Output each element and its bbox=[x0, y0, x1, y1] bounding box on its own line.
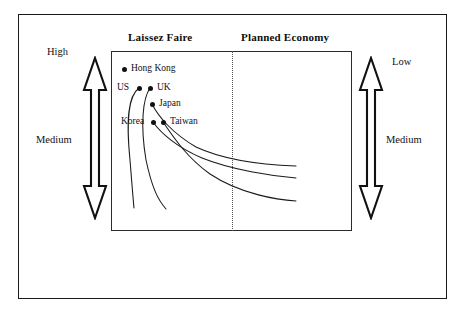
data-label-taiwan: Taiwan bbox=[170, 116, 198, 126]
data-point-japan bbox=[150, 102, 155, 107]
header-planned-economy: Planned Economy bbox=[241, 31, 329, 43]
data-label-hong-kong: Hong Kong bbox=[131, 63, 176, 73]
right-axis-label-medium: Medium bbox=[386, 134, 422, 145]
data-point-us bbox=[137, 86, 142, 91]
data-label-korea: Korea bbox=[121, 116, 144, 126]
header-laissez-faire: Laissez Faire bbox=[128, 31, 192, 43]
data-label-us: US bbox=[117, 82, 129, 92]
right-axis-label-low: Low bbox=[392, 56, 411, 67]
figure-canvas: Laissez Faire Planned Economy Hong KongU… bbox=[0, 0, 464, 320]
right-scale-double-arrow-icon bbox=[358, 56, 384, 220]
left-axis-label-high: High bbox=[47, 46, 68, 57]
left-axis-label-medium: Medium bbox=[36, 134, 72, 145]
data-point-korea bbox=[151, 120, 156, 125]
economy-divider-dotted-line bbox=[232, 51, 233, 231]
data-label-uk: UK bbox=[157, 82, 171, 92]
data-point-hong-kong bbox=[122, 67, 127, 72]
data-point-uk bbox=[148, 86, 153, 91]
left-scale-double-arrow-icon bbox=[82, 56, 108, 220]
data-point-taiwan bbox=[161, 120, 166, 125]
data-label-japan: Japan bbox=[159, 98, 181, 108]
